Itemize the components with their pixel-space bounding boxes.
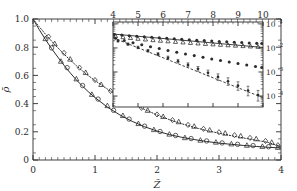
inset-marker-point — [187, 64, 190, 67]
marker-diamond — [248, 135, 252, 140]
inset-marker-filled-circle — [255, 42, 258, 45]
inset-marker-filled-circle — [150, 36, 153, 39]
inset-y-tick-label: 10 — [266, 44, 276, 53]
marker-triangle-up — [68, 57, 73, 62]
x-tick-label: 3 — [216, 165, 222, 175]
inset-marker-filled-circle — [149, 45, 152, 48]
inset-marker-point — [177, 60, 180, 63]
marker-diamond — [263, 138, 267, 143]
inset-marker-filled-circle — [240, 41, 243, 44]
inset-marker-filled-circle — [184, 52, 187, 55]
x-tick-label: 2 — [154, 165, 160, 175]
inset-y-tick-label: 10 — [266, 68, 276, 77]
inset-marker-point — [127, 43, 130, 46]
x-tick-label: 0 — [30, 165, 36, 175]
marker-triangle-up — [260, 144, 265, 149]
inset-marker-filled-circle — [113, 33, 116, 36]
inset-marker-filled-circle — [260, 42, 263, 45]
inset-marker-filled-circle — [218, 40, 221, 43]
inset-marker-point — [197, 67, 200, 70]
y-tick-label: 0.8 — [15, 43, 30, 53]
y-tick-label: 0 — [23, 155, 29, 165]
inset-x-tick-label: 7 — [185, 10, 191, 20]
x-tick-label: 1 — [92, 165, 98, 175]
inset-marker-point — [247, 89, 250, 92]
x-tick-label: 4 — [278, 165, 284, 175]
marker-triangle-up — [244, 143, 249, 148]
inset-marker-filled-circle — [188, 38, 191, 41]
chart-svg: 0123400.20.40.60.81.0Z̃ρ̄4567891010-110-… — [0, 0, 297, 191]
inset-marker-point — [117, 40, 120, 43]
inset-marker-filled-circle — [158, 36, 161, 39]
y-tick-label: 0.2 — [15, 127, 29, 137]
inset-marker-point — [207, 72, 210, 75]
inset-x-tick-label: 5 — [135, 10, 141, 20]
inset-marker-point — [167, 56, 170, 59]
y-axis-label: ρ̄ — [0, 86, 11, 93]
inset-marker-filled-circle — [165, 37, 168, 40]
inset-marker-filled-circle — [201, 56, 204, 59]
inset-x-tick-label: 6 — [160, 10, 166, 20]
inset-y-tick-exponent: -3 — [278, 66, 284, 72]
inset-marker-filled-circle — [180, 38, 183, 41]
y-tick-label: 1.0 — [15, 14, 30, 24]
inset-x-tick-label: 8 — [210, 10, 216, 20]
marker-diamond — [201, 126, 205, 131]
inset-marker-filled-circle — [254, 65, 257, 68]
inset-marker-filled-circle — [195, 39, 198, 42]
inset-marker-point — [217, 76, 220, 79]
y-tick-label: 0.4 — [15, 99, 30, 109]
inset-marker-filled-circle — [236, 62, 239, 65]
inset-marker-filled-circle — [158, 47, 161, 50]
inset-marker-filled-circle — [260, 66, 263, 69]
inset-marker-filled-circle — [228, 60, 231, 63]
marker-diamond — [217, 130, 221, 135]
x-axis-label: Z̃ — [153, 179, 162, 190]
inset-x-tick-label: 4 — [110, 10, 116, 20]
inset-marker-point — [147, 49, 150, 52]
inset-marker-filled-circle — [233, 41, 236, 44]
inset-marker-filled-circle — [175, 51, 178, 54]
inset-x-tick-label: 10 — [257, 10, 269, 20]
inset-marker-filled-circle — [128, 34, 131, 37]
figure-container: 0123400.20.40.60.81.0Z̃ρ̄4567891010-110-… — [0, 0, 297, 191]
inset-marker-filled-circle — [135, 35, 138, 38]
marker-triangle-up — [213, 140, 218, 145]
inset-marker-filled-circle — [120, 34, 123, 37]
inset-y-tick-exponent: -1 — [278, 18, 283, 24]
inset-y-tick-exponent: -2 — [278, 42, 283, 48]
inset-marker-filled-circle — [143, 35, 146, 38]
inset-marker-point — [137, 46, 140, 49]
inset-y-tick-exponent: -4 — [278, 90, 284, 96]
marker-triangle-up — [89, 92, 94, 97]
marker-triangle-up — [229, 141, 234, 146]
inset-marker-point — [257, 94, 260, 97]
inset-marker-filled-circle — [225, 40, 228, 43]
inset-marker-filled-circle — [173, 37, 176, 40]
inset-marker-filled-circle — [210, 39, 213, 42]
inset-x-tick-label: 9 — [235, 10, 241, 20]
inset-marker-filled-circle — [245, 63, 248, 66]
inset-marker-filled-circle — [248, 41, 251, 44]
inset-y-tick-label: 10 — [266, 20, 276, 29]
inset-marker-filled-circle — [210, 57, 213, 60]
inset-marker-point — [157, 53, 160, 56]
inset-marker-filled-circle — [140, 43, 143, 46]
marker-triangle-up — [176, 119, 181, 124]
y-tick-label: 0.6 — [15, 71, 30, 81]
inset-marker-filled-circle — [219, 59, 222, 62]
marker-triangle-up — [223, 131, 228, 136]
inset-marker-point — [237, 84, 240, 87]
inset-marker-filled-circle — [131, 41, 134, 44]
inset-marker-filled-circle — [166, 49, 169, 52]
inset-marker-filled-circle — [203, 39, 206, 42]
inset-marker-filled-circle — [193, 54, 196, 57]
inset-y-tick-label: 10 — [266, 92, 276, 101]
inset-marker-point — [227, 80, 230, 83]
